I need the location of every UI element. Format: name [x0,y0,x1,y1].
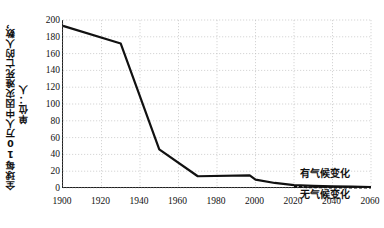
y-axis-tick-labels: 200180160140120100806040200 [30,0,60,228]
series-label-with-climate-change: 有气候变化 [300,168,350,179]
x-axis-tick-label: 2060 [350,196,384,207]
data-series-lines [63,20,371,188]
x-axis-tick-label: 1960 [158,196,198,207]
series-label-without-climate-change: 无气候变化 [300,189,350,200]
y-axis-tick-label: 100 [34,99,60,109]
series-line-with-climate-change [63,26,371,187]
y-axis-tick-label: 120 [34,82,60,92]
y-axis-tick-label: 0 [34,183,60,193]
y-axis-tick-label: 60 [34,133,60,143]
y-axis-tick-label: 180 [34,32,60,42]
y-axis-tick-label: 200 [34,15,60,25]
y-axis-tick-label: 140 [34,65,60,75]
y-axis-tick-label: 20 [34,166,60,176]
x-axis-tick-label: 1920 [81,196,121,207]
x-axis-tick-label: 1900 [42,196,82,207]
plot-area [62,20,370,188]
x-axis-tick-label: 1940 [119,196,159,207]
y-axis-title-line-1: 全球每10万人中因灾难死亡的人数， [4,14,18,194]
y-axis-tick-label: 80 [34,116,60,126]
x-axis-tick-label: 1980 [196,196,236,207]
y-axis-title-line-2: 单位：人 [17,14,31,194]
x-axis-tick-label: 2000 [235,196,275,207]
y-axis-tick-label: 160 [34,49,60,59]
y-axis-title: 全球每10万人中因灾难死亡的人数， 单位：人 [2,14,32,194]
y-axis-tick-label: 40 [34,149,60,159]
